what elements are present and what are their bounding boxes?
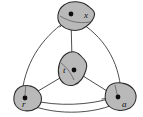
node-a-blob [105, 83, 136, 111]
figure-canvas: x t r a [0, 0, 143, 117]
node-x-blob [58, 2, 95, 31]
node-x[interactable]: x [58, 2, 95, 31]
node-a[interactable]: a [105, 83, 136, 111]
node-t-point [72, 68, 77, 73]
edge-r-to-a-inner [31, 98, 112, 104]
node-x-point [69, 12, 74, 17]
node-t[interactable]: t [58, 52, 86, 86]
node-r-blob [14, 86, 42, 111]
node-x-label: x [83, 10, 88, 20]
node-a-label: a [122, 99, 127, 109]
graph-diagram-svg: x t r a [0, 0, 143, 117]
node-r-label: r [22, 99, 26, 109]
edge-x-to-a [78, 21, 121, 92]
node-r[interactable]: r [14, 85, 42, 111]
node-a-point [116, 95, 121, 100]
